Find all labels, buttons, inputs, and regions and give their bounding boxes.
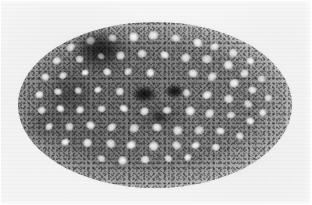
- cell-profile: [18, 22, 292, 188]
- dense-patch-center: [131, 85, 159, 105]
- dense-patch-lower-center: [151, 112, 169, 124]
- micrograph-figure: Grayscale transmission electron microgra…: [0, 0, 312, 205]
- electron-dense-layer: [18, 22, 292, 188]
- dense-patch-center-right: [164, 84, 186, 100]
- dense-patch-upper-left: [74, 31, 126, 69]
